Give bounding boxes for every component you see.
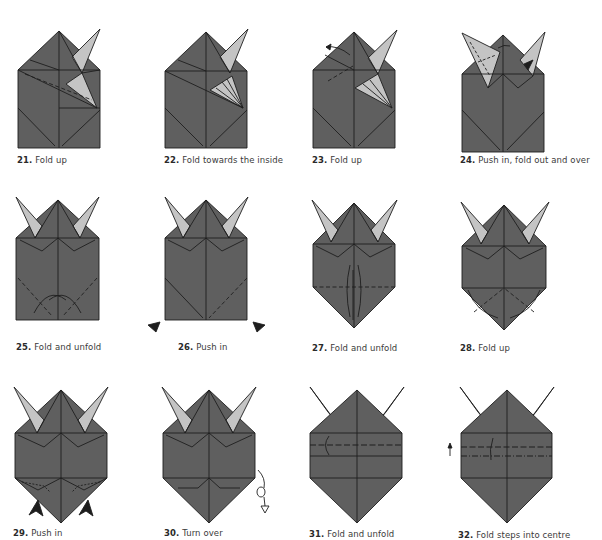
step-label: Fold and unfold — [327, 529, 394, 539]
step-number: 26. — [178, 342, 193, 352]
step-label: Push in — [31, 528, 62, 538]
step-31: 31. Fold and unfold — [298, 360, 448, 539]
step-caption: 32. Fold steps into centre — [458, 530, 570, 540]
step-label: Fold up — [478, 343, 510, 353]
step-number: 27. — [312, 343, 327, 353]
step-caption: 22. Fold towards the inside — [164, 155, 283, 165]
step-number: 29. — [13, 528, 28, 538]
step-caption: 31. Fold and unfold — [309, 529, 394, 539]
step-label: Fold steps into centre — [476, 530, 570, 540]
step-label: Fold towards the inside — [182, 155, 283, 165]
step-label: Fold up — [330, 155, 362, 165]
step-label: Turn over — [182, 528, 223, 538]
step-caption: 30. Turn over — [164, 528, 223, 538]
step-label: Push in, fold out and over — [478, 155, 590, 165]
step-24: 24. Push in, fold out and over — [448, 0, 602, 180]
origami-diagram-31 — [298, 360, 448, 539]
step-number: 21. — [17, 155, 32, 165]
origami-diagram-30 — [148, 360, 298, 539]
step-label: Fold and unfold — [330, 343, 397, 353]
step-22: 22. Fold towards the inside — [148, 0, 298, 180]
step-number: 28. — [460, 343, 475, 353]
origami-diagram-24 — [448, 0, 602, 180]
step-caption: 23. Fold up — [312, 155, 362, 165]
step-number: 25. — [16, 342, 31, 352]
step-caption: 27. Fold and unfold — [312, 343, 397, 353]
step-caption: 24. Push in, fold out and over — [460, 155, 590, 165]
origami-diagram-25 — [0, 180, 150, 360]
step-30: 30. Turn over — [148, 360, 298, 539]
step-caption: 21. Fold up — [17, 155, 67, 165]
step-23: 23. Fold up — [298, 0, 448, 180]
step-label: Fold and unfold — [34, 342, 101, 352]
origami-diagram-26 — [148, 180, 298, 360]
origami-diagram-21 — [0, 0, 150, 180]
step-21: 21. Fold up — [0, 0, 150, 180]
origami-diagram-27 — [298, 180, 448, 360]
step-number: 24. — [460, 155, 475, 165]
step-number: 31. — [309, 529, 324, 539]
step-caption: 26. Push in — [178, 342, 228, 352]
step-28: 28. Fold up — [448, 180, 602, 360]
step-caption: 25. Fold and unfold — [16, 342, 101, 352]
origami-diagram-22 — [148, 0, 298, 180]
step-label: Push in — [196, 342, 227, 352]
step-number: 32. — [458, 530, 473, 540]
origami-diagram-23 — [298, 0, 448, 180]
step-25: 25. Fold and unfold — [0, 180, 150, 360]
step-caption: 29. Push in — [13, 528, 63, 538]
step-number: 30. — [164, 528, 179, 538]
step-29: 29. Push in — [0, 360, 150, 539]
step-number: 22. — [164, 155, 179, 165]
origami-diagram-29 — [0, 360, 150, 539]
step-26: 26. Push in — [148, 180, 298, 360]
step-label: Fold up — [35, 155, 67, 165]
step-number: 23. — [312, 155, 327, 165]
step-caption: 28. Fold up — [460, 343, 510, 353]
step-27: 27. Fold and unfold — [298, 180, 448, 360]
step-32: 32. Fold steps into centre — [448, 360, 602, 539]
origami-diagram-28 — [448, 180, 602, 360]
origami-diagram-32 — [448, 360, 602, 539]
